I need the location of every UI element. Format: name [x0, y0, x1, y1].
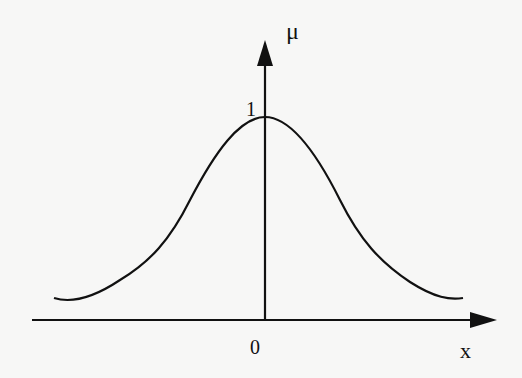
diagram-canvas: μ 1 0 x [0, 0, 522, 378]
y-axis-arrow-icon [257, 40, 273, 66]
membership-plot [0, 0, 522, 378]
x-axis-arrow-icon [470, 312, 497, 328]
y-axis-label: μ [286, 18, 299, 45]
peak-label: 1 [246, 98, 256, 121]
gaussian-curve [54, 117, 463, 300]
origin-label: 0 [250, 336, 260, 359]
x-axis-label: x [460, 338, 471, 364]
